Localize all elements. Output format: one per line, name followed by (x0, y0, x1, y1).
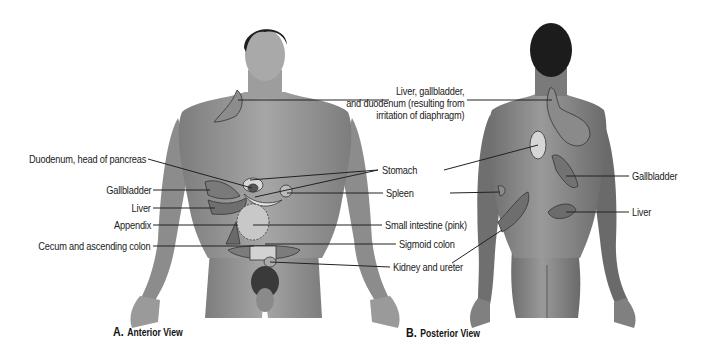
label-stomach: Stomach (382, 164, 417, 176)
label-referred-diaphragm: Liver, gallbladder, and duodenum (result… (346, 85, 464, 121)
caption-text-a: Anterior View (127, 326, 182, 338)
region-small-intestine (237, 204, 269, 240)
label-small-intestine: Small intestine (pink) (385, 219, 467, 231)
label-line-3: irritation of diaphragm) (346, 109, 464, 121)
label-liver-front: Liver (132, 202, 151, 214)
label-spleen: Spleen (386, 187, 414, 199)
region-duodenum (248, 184, 258, 192)
caption-posterior-view: B. Posterior View (406, 323, 480, 341)
label-gallbladder-front: Gallbladder (106, 184, 151, 196)
caption-letter-a: A. (113, 324, 124, 339)
label-appendix: Appendix (114, 219, 151, 231)
label-cecum-ascending-colon: Cecum and ascending colon (39, 240, 151, 252)
label-kidney-ureter: Kidney and ureter (393, 261, 463, 273)
caption-anterior-view: A. Anterior View (113, 322, 183, 340)
caption-letter-b: B. (406, 325, 417, 340)
label-line-1: Liver, gallbladder, (346, 85, 464, 97)
label-liver-back: Liver (632, 206, 651, 218)
caption-text-b: Posterior View (420, 327, 480, 339)
label-duodenum-pancreas: Duodenum, head of pancreas (29, 153, 146, 165)
label-gallbladder-back: Gallbladder (632, 170, 677, 182)
label-line-2: and duodenum (resulting from (346, 97, 464, 109)
label-sigmoid-colon: Sigmoid colon (399, 238, 455, 250)
anatomy-figure (0, 0, 711, 353)
